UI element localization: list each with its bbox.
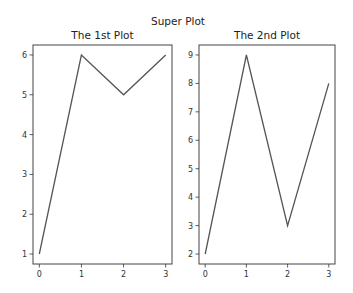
x-tick-label: 2 [285,270,290,279]
subplot-title: The 2nd Plot [233,29,300,41]
x-tick-label: 2 [121,270,126,279]
data-line [39,55,165,254]
subplot-2nd-plot: The 2nd Plot012323456789 [188,29,335,279]
y-tick-label: 5 [188,165,193,174]
subplot-title: The 1st Plot [70,29,133,41]
x-tick-label: 1 [79,270,84,279]
y-tick-label: 8 [188,79,193,88]
axes-frame [33,45,172,264]
x-tick-label: 3 [326,270,331,279]
y-tick-label: 2 [22,210,27,219]
x-tick-label: 0 [203,270,208,279]
x-tick-label: 1 [244,270,249,279]
data-line [205,55,329,254]
y-tick-label: 6 [188,136,193,145]
y-tick-label: 2 [188,250,193,259]
y-tick-label: 1 [22,250,27,259]
x-tick-label: 0 [37,270,42,279]
y-tick-label: 4 [22,131,27,140]
x-tick-label: 3 [163,270,168,279]
y-tick-label: 3 [22,170,27,179]
y-tick-label: 3 [188,222,193,231]
subplot-1st-plot: The 1st Plot0123123456 [22,29,172,279]
y-tick-label: 9 [188,51,193,60]
y-tick-label: 4 [188,193,193,202]
y-tick-label: 5 [22,91,27,100]
y-tick-label: 6 [22,51,27,60]
figure: Super Plot The 1st Plot0123123456 The 2n… [0,0,353,293]
axes-frame [199,45,335,264]
figure-suptitle: Super Plot [151,15,205,27]
y-tick-label: 7 [188,108,193,117]
